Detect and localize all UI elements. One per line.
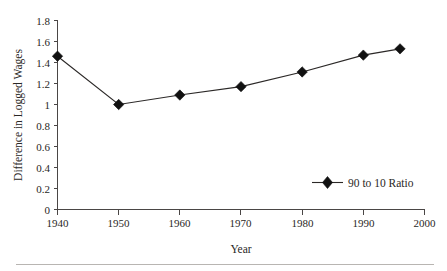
legend-label-90-to-10-ratio: 90 to 10 Ratio	[348, 177, 414, 189]
y-axis-title: Difference in Logged Wages	[12, 49, 25, 181]
x-tick-label-1970: 1970	[230, 217, 253, 229]
x-tick-label-1960: 1960	[169, 217, 192, 229]
chart-legend: 90 to 10 Ratio	[312, 177, 414, 189]
y-tick-label-1-8: 1.8	[36, 15, 50, 27]
x-tick-label-2000: 2000	[414, 217, 437, 229]
x-tick-label-1950: 1950	[108, 217, 131, 229]
y-tick-label-0-2: 0.2	[36, 183, 50, 195]
y-tick-label-0: 0	[45, 204, 51, 216]
y-tick-label-0-6: 0.6	[36, 141, 50, 153]
y-tick-label-0-4: 0.4	[36, 162, 50, 174]
chart-background	[0, 0, 447, 271]
x-tick-label-1990: 1990	[353, 217, 376, 229]
y-tick-label-0-8: 0.8	[36, 120, 50, 132]
y-tick-label-1-2: 1.2	[36, 78, 50, 90]
y-tick-label-1-4: 1.4	[36, 57, 50, 69]
x-axis-title: Year	[230, 243, 251, 255]
y-tick-label-1-6: 1.6	[36, 36, 50, 48]
x-tick-label-1980: 1980	[292, 217, 315, 229]
y-tick-label-1-0: 1	[45, 99, 51, 111]
x-tick-label-1940: 1940	[47, 217, 70, 229]
